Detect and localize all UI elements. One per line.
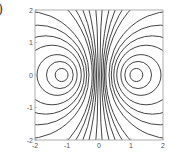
y-tick-label: -2 bbox=[27, 137, 33, 144]
contour-line bbox=[106, 0, 172, 157]
contour-line bbox=[46, 61, 73, 88]
contour-line bbox=[0, 25, 87, 125]
y-tick-label: 2 bbox=[29, 7, 33, 14]
contour-plot: -2-1012210-1-2 bbox=[0, 0, 172, 157]
y-tick-label: 1 bbox=[29, 39, 33, 46]
contour-line bbox=[121, 55, 161, 96]
contour-line bbox=[37, 55, 77, 96]
plot-frame bbox=[35, 10, 163, 140]
x-tick-label: -1 bbox=[64, 142, 70, 149]
contour-line bbox=[103, 0, 172, 157]
contour-line bbox=[130, 68, 143, 81]
axis-ticks bbox=[35, 10, 163, 140]
x-tick-label: 1 bbox=[129, 142, 133, 149]
contour-line bbox=[104, 0, 172, 157]
contour-line bbox=[101, 0, 172, 157]
contour-line bbox=[0, 11, 89, 139]
contour-lines bbox=[0, 0, 172, 157]
contour-line bbox=[7, 36, 84, 114]
contour-line bbox=[0, 0, 92, 157]
y-tick-label: -1 bbox=[27, 104, 33, 111]
contour-line bbox=[0, 0, 97, 157]
contour-line bbox=[0, 0, 98, 157]
x-tick-label: 2 bbox=[161, 142, 165, 149]
contour-line bbox=[109, 11, 172, 139]
x-tick-label: 0 bbox=[97, 142, 101, 149]
contour-line bbox=[55, 68, 68, 81]
contour-line bbox=[125, 61, 152, 88]
y-tick-label: 0 bbox=[29, 72, 33, 79]
